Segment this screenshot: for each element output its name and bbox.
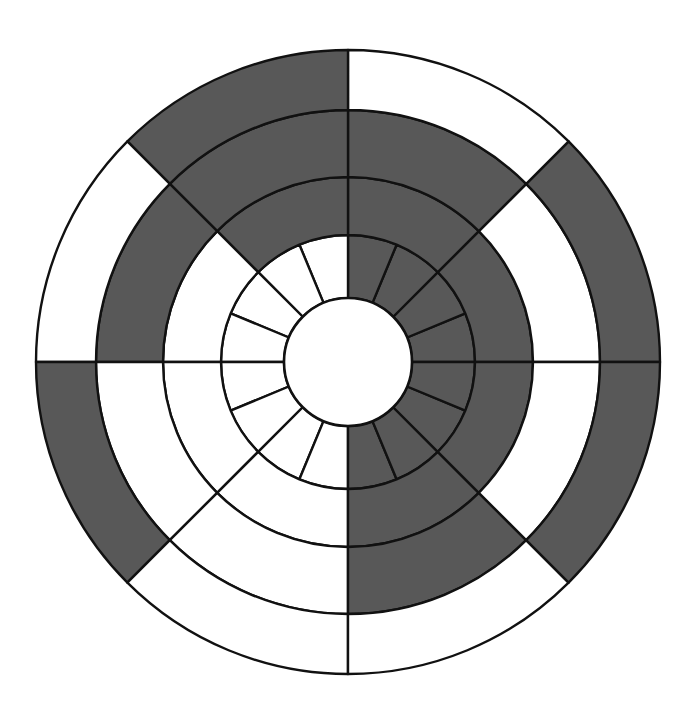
center-hub [284,298,412,426]
ring-sector-wheel [0,0,697,715]
figure-root [0,0,697,715]
